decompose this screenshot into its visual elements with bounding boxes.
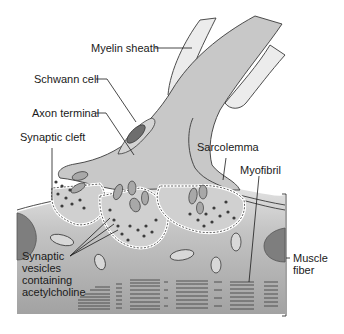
leader-schwann: [107, 79, 136, 122]
label-schwann-cell: Schwann cell: [34, 73, 99, 85]
label-synaptic-vesicles: Synaptic vesicles containing acetylcholi…: [22, 250, 86, 298]
neuromuscular-junction-diagram: Myelin sheath Schwann cell Axon terminal…: [0, 0, 344, 334]
label-axon-terminal: Axon terminal: [32, 107, 99, 119]
label-sarcolemma: Sarcolemma: [197, 141, 259, 153]
label-synaptic-cleft: Synaptic cleft: [20, 131, 85, 143]
label-myofibril: Myofibril: [240, 164, 281, 176]
label-muscle-fiber: Muscle fiber: [293, 252, 328, 276]
label-myelin-sheath: Myelin sheath: [91, 42, 159, 54]
